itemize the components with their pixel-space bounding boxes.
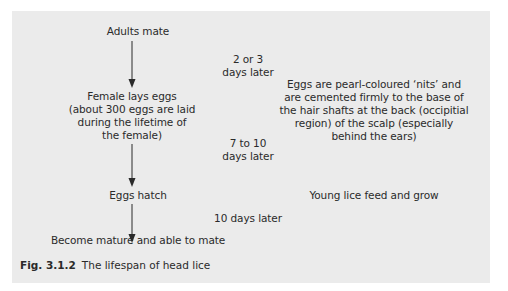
down-arrow-icon (126, 41, 138, 89)
note-line: are cemented firmly to the base of (274, 91, 474, 104)
delay-label-1: 2 or 3 days later (208, 53, 288, 79)
diagram-panel: Adults mate Female lays eggs (about 300 … (12, 11, 490, 283)
down-arrow-icon (126, 144, 138, 188)
note-eggs-nits: Eggs are pearl-coloured ‘nits’ and are c… (274, 78, 474, 143)
delay-label-3: 10 days later (198, 212, 298, 225)
note-line: region) of the scalp (especially (274, 117, 474, 130)
note-line: Eggs are pearl-coloured ‘nits’ and (274, 78, 474, 91)
note-young-lice: Young lice feed and grow (304, 189, 444, 202)
figure-number: Fig. 3.1.2 (20, 259, 76, 271)
stage-adults-mate: Adults mate (88, 25, 188, 38)
stage-line: (about 300 eggs are laid (52, 103, 212, 116)
stage-line: the female) (52, 129, 212, 142)
figure-caption: Fig. 3.1.2The lifespan of head lice (20, 259, 210, 272)
stage-line: during the lifetime of (52, 116, 212, 129)
delay-line: days later (208, 150, 288, 163)
stage-become-mature: Become mature and able to mate (38, 234, 238, 247)
figure-title: The lifespan of head lice (82, 259, 211, 271)
stage-line: Female lays eggs (52, 90, 212, 103)
stage-eggs-hatch: Eggs hatch (88, 189, 188, 202)
note-line: behind the ears) (274, 130, 474, 143)
delay-line: 2 or 3 (208, 53, 288, 66)
stage-female-lays-eggs: Female lays eggs (about 300 eggs are lai… (52, 90, 212, 142)
note-line: the hair shafts at the back (occipitial (274, 104, 474, 117)
